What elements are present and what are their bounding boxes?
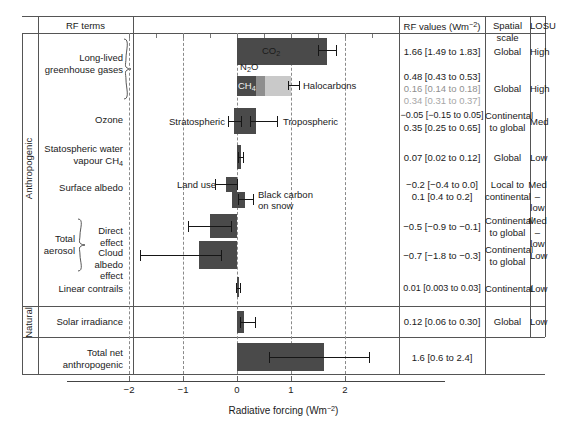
top-tick-neg1-5	[156, 34, 157, 38]
gridline-neg2	[129, 33, 130, 374]
errorcap-halocarbons-high	[299, 81, 300, 90]
term-label-ozone: Ozone	[40, 114, 123, 126]
term-label-linear-contrails: Linear contrails	[40, 283, 123, 295]
spatial-scale-solar-irradiance: Global	[485, 316, 530, 328]
rf-value-black-carbon: 0.1 [0.4 to 0.2]	[399, 191, 485, 203]
table-top-rule	[22, 16, 545, 17]
plot-label-stratospheric: Stratospheric	[169, 116, 225, 127]
spatial-scale-linear-contrails: Continental	[485, 283, 530, 295]
plot-label-co2: CO2	[262, 45, 280, 58]
group-label-anthropogenic: Anthropogenic	[23, 99, 34, 239]
plot-label-co2-text: CO	[262, 45, 276, 56]
header-rf-terms: RF terms	[38, 20, 133, 32]
errorbar-direct-effect	[188, 226, 232, 227]
errorcap-ozone-strat-high	[241, 116, 242, 127]
plot-label-ch4-text: CH	[238, 80, 252, 91]
rf-value-land-use: −0.2 [−0.4 to 0.0]	[399, 179, 485, 191]
errorcap-direct-high	[231, 221, 232, 232]
errorcap-co2-high	[336, 45, 337, 56]
natural-bottom-rule	[22, 337, 545, 338]
term-label-solar-irradiance: Solar irradiance	[40, 316, 123, 328]
tna-line-1: Total net	[87, 347, 123, 358]
losu-linear-contrails: Low	[530, 283, 545, 295]
rf-value-stratospheric-water-vapour: 0.07 [0.02 to 0.12]	[399, 152, 485, 164]
bar-linear-contrails	[237, 277, 239, 297]
plot-label-land-use: Land use	[177, 179, 216, 190]
total-aerosol-l1: Total	[55, 233, 75, 244]
losu-co2: High	[530, 46, 545, 58]
errorbar-ozone-stratospheric	[228, 121, 242, 122]
rf-value-cloud-albedo-effect: −0.7 [−1.8 to −0.3]	[399, 250, 485, 262]
errorcap-cloud-low	[140, 250, 141, 261]
spatial-scale-ghg: Global	[485, 83, 530, 95]
term-label-direct-effect: Direct effect	[88, 225, 123, 248]
x-tick-label-neg2: −2	[114, 384, 144, 395]
spatial-scale-co2: Global	[485, 46, 530, 58]
top-tick-neg1	[183, 34, 184, 38]
plot-label-co2-sub: 2	[276, 49, 280, 58]
errorcap-direct-low	[188, 221, 189, 232]
errorbar-total-net	[269, 357, 370, 358]
top-tick-2	[345, 34, 346, 38]
spatial-scale-ozone: Continental to global	[485, 110, 530, 133]
spatial-scale-cloud-albedo-effect: Continental to global	[485, 244, 530, 267]
losu-solar-irradiance: Low	[530, 316, 545, 328]
x-axis-title-end: )	[335, 405, 338, 416]
losu-stratospheric-water-vapour: Low	[530, 152, 545, 164]
plot-label-n2o-t2: O	[251, 61, 258, 72]
header-rf-values: RF values (Wm−2)	[399, 20, 485, 32]
x-tick-2	[345, 376, 346, 381]
errorcap-total-low	[269, 352, 270, 363]
rf-value-total-net-anthropogenic: 1.6 [0.6 to 2.4]	[399, 352, 485, 364]
errorbar-solar	[240, 322, 256, 323]
header-rf-values-end: )	[477, 21, 480, 32]
spatial-scale-surface-albedo: Local to continental	[485, 179, 530, 202]
losu-surface-albedo: Med – low	[528, 179, 547, 214]
term-label-cloud-albedo-effect: Cloud albedo effect	[84, 247, 123, 282]
header-losu: LOSU	[530, 20, 545, 32]
plot-label-tropospheric: Tropospheric	[283, 116, 338, 127]
rf-value-n2o: 0.16 [0.14 to 0.18]	[399, 83, 485, 95]
spatial-scale-direct-effect: Continental to global	[485, 215, 530, 238]
errorcap-ozone-trop-low	[250, 116, 251, 127]
term-label-total-aerosol: Total aerosol Total aerosol	[28, 233, 75, 256]
top-tick-neg0-5	[210, 34, 211, 38]
rf-value-co2: 1.66 [1.49 to 1.83]	[399, 46, 485, 58]
errorcap-contrails-low	[236, 283, 237, 293]
bc-line-1: Black carbon	[258, 189, 313, 200]
rf-value-solar-irradiance: 0.12 [0.06 to 0.30]	[399, 316, 485, 328]
errorcap-black-carbon-low	[238, 194, 239, 205]
x-tick-label-neg1: −1	[168, 384, 198, 395]
errorcap-ozone-trop-high	[277, 116, 278, 127]
spatial-scale-stratospheric-water-vapour: Global	[485, 152, 530, 164]
errorcap-contrails-high	[240, 283, 241, 293]
gridline-neg1	[183, 33, 184, 374]
plot-label-n2o: N2O	[240, 61, 258, 74]
errorcap-total-high	[369, 352, 370, 363]
x-tick-0	[237, 376, 238, 381]
swv-line-1: Statospheric water	[44, 143, 123, 154]
x-tick-label-1: 1	[276, 384, 306, 395]
losu-cloud-albedo-effect: Low	[530, 250, 545, 262]
x-tick-label-2: 2	[330, 384, 360, 395]
errorbar-ozone-tropospheric	[250, 121, 278, 122]
term-line-2: greenhouse gases	[45, 64, 123, 75]
errorbar-land-use	[215, 184, 238, 185]
errorcap-solar-low	[240, 317, 241, 328]
errorcap-black-carbon-high	[253, 194, 254, 205]
radiative-forcing-figure: RF terms RF values (Wm−2) Spatial scale …	[0, 0, 567, 427]
x-axis-title-text: Radiative forcing (Wm	[229, 405, 327, 416]
losu-ozone: Med	[530, 116, 545, 128]
losu-direct-effect: Med – low	[528, 215, 547, 250]
top-tick-neg2	[129, 34, 130, 38]
x-tick-neg2	[129, 376, 130, 381]
x-tick-1	[291, 376, 292, 381]
cae-line-2: effect	[100, 270, 123, 281]
errorcap-solar-high	[255, 317, 256, 328]
total-row-right-rule	[485, 337, 486, 374]
x-axis-title-sup: −2	[327, 404, 335, 413]
term-label-surface-albedo: Surface albedo	[40, 182, 123, 194]
errorcap-halocarbons-low	[288, 81, 289, 90]
bc-line-2: on snow	[258, 200, 293, 211]
errorbar-cloud-albedo	[140, 255, 222, 256]
